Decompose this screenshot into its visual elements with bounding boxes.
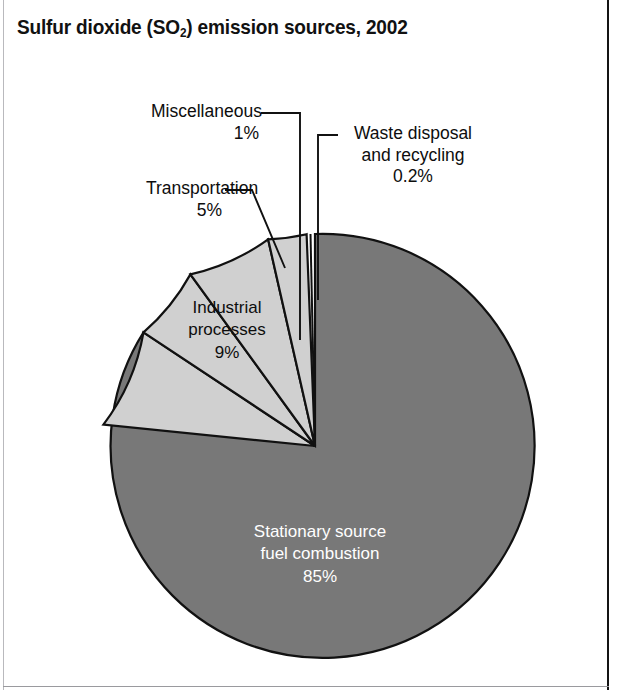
slice-label-industrial-processes-line2: processes — [188, 320, 265, 339]
chart-figure: Sulfur dioxide (SO2) emission sources, 2… — [0, 0, 629, 690]
slice-label-stationary-source-line1: Stationary source — [254, 522, 386, 541]
slice-label-stationary-source: Stationary source fuel combustion 85% — [222, 521, 418, 588]
slice-label-stationary-source-line2: fuel combustion — [260, 544, 379, 563]
callout-waste-disposal: Waste disposal and recycling 0.2% — [347, 123, 479, 188]
callout-transportation: Transportation 5% — [146, 178, 222, 221]
callout-miscellaneous-value: 1% — [151, 123, 259, 145]
callout-miscellaneous: Miscellaneous 1% — [151, 101, 259, 144]
callout-miscellaneous-name: Miscellaneous — [151, 101, 262, 121]
callout-transportation-value: 5% — [146, 200, 222, 222]
slice-label-industrial-processes-line1: Industrial — [193, 298, 262, 317]
callout-waste-disposal-name-line2: and recycling — [347, 145, 479, 167]
slice-label-industrial-processes-value: 9% — [215, 343, 240, 362]
slice-label-stationary-source-value: 85% — [303, 567, 337, 586]
callout-waste-disposal-name-line1: Waste disposal — [354, 123, 472, 143]
slice-label-industrial-processes: Industrial processes 9% — [164, 297, 290, 364]
callout-transportation-name: Transportation — [146, 178, 258, 198]
callout-waste-disposal-value: 0.2% — [347, 166, 479, 188]
